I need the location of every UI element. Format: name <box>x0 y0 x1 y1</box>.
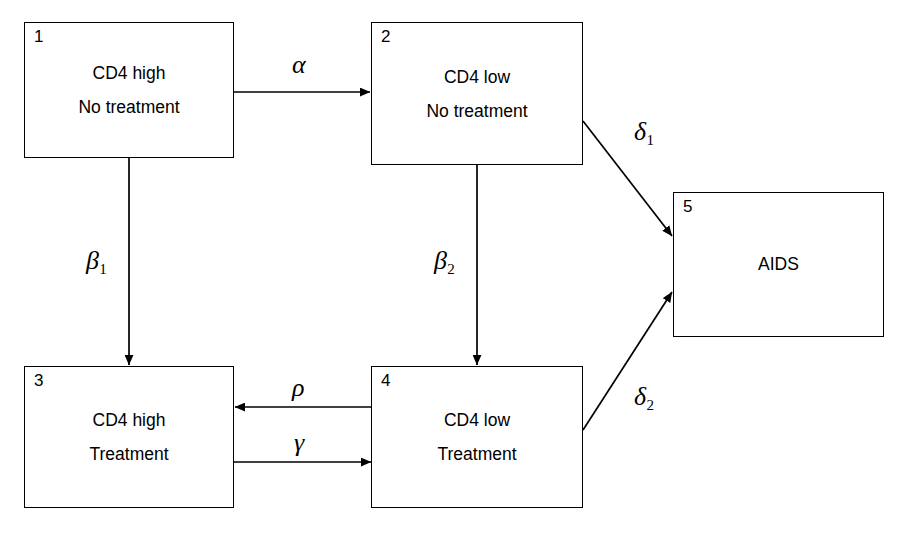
edge-label-delta-1-symbol: δ <box>634 117 646 146</box>
edge-label-beta-1-subscript: 1 <box>99 261 107 277</box>
state-1-labels: CD4 high No treatment <box>25 56 233 124</box>
state-5-number: 5 <box>683 198 692 215</box>
edge-label-beta-2: β2 <box>434 248 455 274</box>
state-box-5[interactable]: 5 AIDS <box>673 192 884 337</box>
state-5-line-1: AIDS <box>674 255 883 274</box>
edge-label-delta-2-symbol: δ <box>634 382 646 411</box>
state-box-3[interactable]: 3 CD4 high Treatment <box>24 366 234 508</box>
edge-label-rho: ρ <box>292 375 304 401</box>
state-4-number: 4 <box>381 372 390 389</box>
state-1-number: 1 <box>34 28 43 45</box>
edge-label-rho-symbol: ρ <box>292 373 304 402</box>
edge-label-alpha-symbol: α <box>292 50 306 79</box>
edge-label-alpha: α <box>292 52 306 78</box>
state-1-line-2: No treatment <box>25 90 233 124</box>
edge-label-beta-2-subscript: 2 <box>447 261 455 277</box>
edge-label-delta-1: δ1 <box>634 119 654 145</box>
state-2-line-2: No treatment <box>372 94 582 128</box>
edge-label-beta-1-symbol: β <box>86 246 99 275</box>
edge-label-gamma-symbol: γ <box>294 428 304 457</box>
edge-label-gamma: γ <box>294 430 304 456</box>
state-2-number: 2 <box>381 28 390 45</box>
edge-label-beta-2-symbol: β <box>434 246 447 275</box>
edge-label-delta-2-subscript: 2 <box>646 397 654 413</box>
edge-label-delta-2: δ2 <box>634 384 654 410</box>
state-box-2[interactable]: 2 CD4 low No treatment <box>371 22 583 165</box>
edge-label-delta-1-subscript: 1 <box>646 132 654 148</box>
state-4-labels: CD4 low Treatment <box>372 403 582 471</box>
edge-label-beta-1: β1 <box>86 248 107 274</box>
state-3-labels: CD4 high Treatment <box>25 403 233 471</box>
state-transition-diagram: 1 CD4 high No treatment 2 CD4 low No tre… <box>0 0 904 533</box>
state-3-number: 3 <box>34 372 43 389</box>
state-3-line-2: Treatment <box>25 437 233 471</box>
state-box-4[interactable]: 4 CD4 low Treatment <box>371 366 583 508</box>
state-2-labels: CD4 low No treatment <box>372 59 582 127</box>
state-box-1[interactable]: 1 CD4 high No treatment <box>24 22 234 158</box>
state-2-line-1: CD4 low <box>372 59 582 93</box>
state-4-line-1: CD4 low <box>372 403 582 437</box>
state-3-line-1: CD4 high <box>25 403 233 437</box>
state-1-line-1: CD4 high <box>25 56 233 90</box>
state-5-labels: AIDS <box>674 255 883 274</box>
state-4-line-2: Treatment <box>372 437 582 471</box>
edge-delta-2 <box>583 292 672 430</box>
edge-delta-1 <box>583 121 672 236</box>
